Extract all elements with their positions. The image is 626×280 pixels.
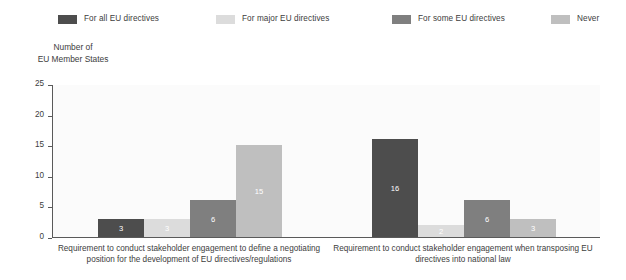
bar-value-label: 16 xyxy=(391,185,399,193)
plot-area: 3361516263 xyxy=(52,85,600,238)
y-axis-tick: 25 xyxy=(0,85,52,86)
bar[interactable]: 2 xyxy=(418,225,464,237)
bar-value-label: 15 xyxy=(255,188,263,196)
legend-swatch-icon-0 xyxy=(58,15,77,24)
legend-label-2: For some EU directives xyxy=(418,15,505,23)
bar-value-label: 3 xyxy=(531,225,535,233)
legend-swatch-icon-3 xyxy=(551,15,570,24)
x-axis-category-label-0: Requirement to conduct stakeholder engag… xyxy=(52,243,326,265)
y-axis-tick-label: 5 xyxy=(39,202,44,210)
y-axis-tick-mark xyxy=(48,238,52,239)
bar[interactable]: 6 xyxy=(190,200,236,237)
legend-swatch-icon-2 xyxy=(392,15,411,24)
bar-value-label: 6 xyxy=(211,216,215,224)
y-axis-tick: 10 xyxy=(0,177,52,178)
bar[interactable]: 3 xyxy=(510,219,556,237)
legend-swatch-icon-1 xyxy=(216,15,235,24)
legend-item-for-some-eu-directives[interactable]: For some EU directives xyxy=(392,10,505,28)
y-axis-tick-label: 15 xyxy=(35,141,44,149)
y-axis-tick-label: 0 xyxy=(39,233,44,241)
bar-value-label: 2 xyxy=(439,228,443,236)
x-axis-category-label-1: Requirement to conduct stakeholder engag… xyxy=(326,243,600,265)
y-axis-tick: 5 xyxy=(0,207,52,208)
bar[interactable]: 6 xyxy=(464,200,510,237)
y-axis-tick: 0 xyxy=(0,238,52,239)
chart-legend: For all EU directives For major EU direc… xyxy=(0,10,626,32)
bar[interactable]: 3 xyxy=(144,219,190,237)
bar-value-label: 3 xyxy=(165,225,169,233)
y-axis-tick-label: 10 xyxy=(35,172,44,180)
legend-label-0: For all EU directives xyxy=(84,15,159,23)
y-axis-tick: 20 xyxy=(0,116,52,117)
y-axis-tick-label: 20 xyxy=(35,111,44,119)
bars-layer: 3361516263 xyxy=(53,85,600,237)
y-axis-tick: 15 xyxy=(0,146,52,147)
bar[interactable]: 15 xyxy=(236,145,282,237)
legend-item-for-all-eu-directives[interactable]: For all EU directives xyxy=(58,10,159,28)
legend-label-1: For major EU directives xyxy=(242,15,329,23)
y-axis-title-line-1: Number of xyxy=(13,42,133,54)
bar[interactable]: 3 xyxy=(98,219,144,237)
bar[interactable]: 16 xyxy=(372,139,418,237)
y-axis-tick-label: 25 xyxy=(35,80,44,88)
bar-value-label: 3 xyxy=(119,225,123,233)
bar-value-label: 6 xyxy=(485,216,489,224)
legend-item-for-major-eu-directives[interactable]: For major EU directives xyxy=(216,10,329,28)
legend-item-never[interactable]: Never xyxy=(551,10,599,28)
legend-label-3: Never xyxy=(577,15,599,23)
y-axis-title-line-2: EU Member States xyxy=(13,54,133,66)
bar-chart: For all EU directives For major EU direc… xyxy=(0,0,626,280)
y-axis-title: Number of EU Member States xyxy=(13,42,133,65)
